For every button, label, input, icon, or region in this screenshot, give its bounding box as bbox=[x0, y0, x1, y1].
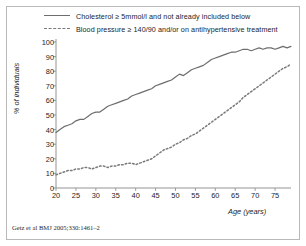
y-tick-label: 40 bbox=[32, 125, 54, 134]
y-tick-label: 90 bbox=[32, 52, 54, 61]
y-tick-label: 100 bbox=[32, 38, 54, 47]
series-group bbox=[56, 46, 291, 174]
y-tick-label: 50 bbox=[32, 111, 54, 120]
y-tick-label: 30 bbox=[32, 140, 54, 149]
y-tick-label: 20 bbox=[32, 154, 54, 163]
y-tick-label: 10 bbox=[32, 169, 54, 178]
series-line-blood-pressure bbox=[56, 64, 291, 175]
x-axis-ticks: 202530354045505560657075 bbox=[0, 191, 306, 203]
figure-container: Cholesterol ≥ 5mmol/l and not already in… bbox=[0, 0, 306, 246]
y-axis-ticks: 0102030405060708090100 bbox=[28, 0, 54, 246]
x-axis-title: Age (years) bbox=[228, 207, 266, 216]
y-tick-label: 80 bbox=[32, 67, 54, 76]
x-tick-label: 75 bbox=[263, 191, 287, 200]
source-citation: Getz et al BMJ 2005;330:1461–2 bbox=[12, 224, 100, 231]
y-axis-title: % of individuals bbox=[12, 39, 21, 139]
y-tick-label: 60 bbox=[32, 96, 54, 105]
series-line-cholesterol bbox=[56, 46, 291, 132]
y-tick-label: 70 bbox=[32, 81, 54, 90]
